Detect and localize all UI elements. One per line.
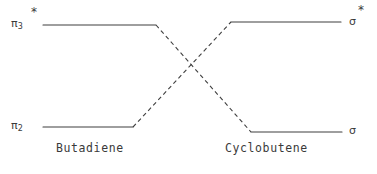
correlation-line-pi2-to-sigmastar	[43, 22, 341, 127]
correlation-dashed-pi3star-sigma	[156, 25, 251, 132]
orbital-symbol-sigma: σ	[349, 124, 356, 137]
orbital-symbol-sigma-star: σ	[349, 15, 356, 28]
species-label-cyclobutene: Cyclobutene	[225, 143, 308, 155]
orbital-subscript-pi3: 3	[18, 22, 23, 31]
orbital-symbol-pi2: π	[11, 119, 18, 132]
superscript-star-sigma: *	[358, 4, 364, 16]
orbital-label-pi3-star: π3	[11, 18, 23, 31]
correlation-line-pi3star-to-sigma	[43, 25, 342, 132]
superscript-star-pi3: *	[31, 6, 37, 18]
orbital-label-pi2: π2	[11, 120, 23, 133]
correlation-dashed-pi2-sigmastar	[133, 22, 231, 127]
orbital-label-sigma-star: σ	[349, 16, 356, 27]
orbital-subscript-pi2: 2	[18, 124, 23, 133]
orbital-symbol-pi3: π	[11, 17, 18, 30]
species-label-butadiene: Butadiene	[56, 143, 124, 155]
orbital-label-sigma: σ	[349, 125, 356, 136]
orbital-correlation-diagram: π3 * π2 σ * σ Butadiene Cyclobutene	[0, 0, 377, 174]
